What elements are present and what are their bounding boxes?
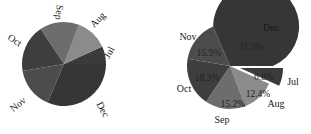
right-label-nov: Nov xyxy=(179,31,196,42)
left-label-dec: Dec xyxy=(94,100,112,120)
left-pie-chart: Jul Aug Sep Oct Nov Dec xyxy=(6,4,117,119)
right-label-aug: Aug xyxy=(267,98,284,109)
left-label-nov: Nov xyxy=(8,95,28,114)
right-label-sep: Sep xyxy=(215,114,230,125)
right-pct-nov: 15.9% xyxy=(197,48,222,58)
left-label-sep: Sep xyxy=(53,4,66,20)
right-pct-oct: 18.3% xyxy=(195,73,220,83)
left-label-aug: Aug xyxy=(88,10,108,30)
pie-charts-figure: Jul Aug Sep Oct Nov Dec 6.8% 12.4% 15.2%… xyxy=(0,0,311,134)
right-pct-jul: 6.8% xyxy=(254,72,274,82)
right-label-oct: Oct xyxy=(177,83,192,94)
right-pie-chart: 6.8% 12.4% 15.2% 18.3% 15.9% 31.3% Jul A… xyxy=(177,0,299,125)
right-slice-dec xyxy=(213,0,299,66)
right-pct-dec: 31.3% xyxy=(239,42,264,52)
right-pct-sep: 15.2% xyxy=(221,99,246,109)
right-label-jul: Jul xyxy=(287,76,299,87)
right-label-dec: Dec xyxy=(263,22,280,33)
left-label-oct: Oct xyxy=(6,32,24,49)
